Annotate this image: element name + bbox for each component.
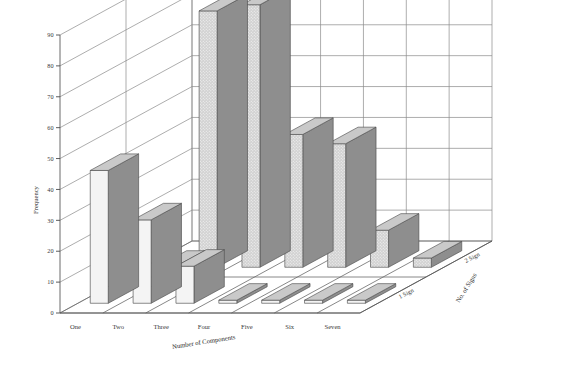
bar	[242, 0, 290, 267]
y-tick-label: 40	[47, 186, 53, 193]
x-tick-label: Five	[241, 323, 253, 330]
x-axis-title: Number of Components	[172, 333, 236, 350]
y-tick-label: 20	[47, 247, 53, 254]
bar	[371, 214, 419, 268]
y-tick-label: 10	[47, 278, 53, 285]
bar	[262, 284, 310, 304]
z-tick-label: 2 Sign	[463, 250, 480, 264]
x-tick-label: One	[70, 323, 81, 330]
z-axis-title: No. of Signs	[454, 271, 478, 303]
bar	[199, 0, 247, 267]
bar	[328, 127, 376, 267]
x-tick-label: Four	[198, 323, 211, 330]
y-tick-label: 0	[50, 309, 53, 316]
x-tick-label: Seven	[325, 323, 342, 330]
x-tick-label: Two	[112, 323, 124, 330]
y-tick-label: 50	[47, 155, 53, 162]
bar	[347, 284, 395, 304]
bar	[305, 284, 353, 304]
x-tick-label: Six	[285, 323, 294, 330]
y-tick-label: 60	[47, 124, 53, 131]
x-tick-label: Three	[153, 323, 168, 330]
bar	[133, 203, 181, 303]
bar	[90, 154, 138, 303]
y-tick-label: 70	[47, 93, 53, 100]
bar	[285, 118, 333, 267]
bar	[413, 241, 461, 267]
y-axis-title: Frequency	[32, 185, 39, 214]
y-tick-label: 80	[47, 62, 53, 69]
bar	[219, 284, 267, 304]
y-tick-label: 90	[47, 31, 53, 38]
y-tick-label: 30	[47, 217, 53, 224]
z-tick-label: 1 Sign	[397, 286, 414, 300]
chart-canvas: 0102030405060708090FrequencyOneTwoThreeF…	[0, 0, 561, 370]
chart-3d-bar: 0102030405060708090FrequencyOneTwoThreeF…	[0, 0, 561, 370]
